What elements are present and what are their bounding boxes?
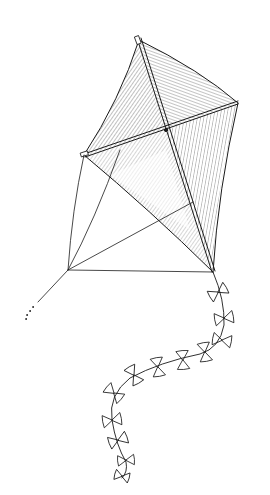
kite-tail-string — [111, 272, 224, 478]
kite-illustration — [0, 0, 270, 495]
kite-sail — [84, 40, 238, 272]
